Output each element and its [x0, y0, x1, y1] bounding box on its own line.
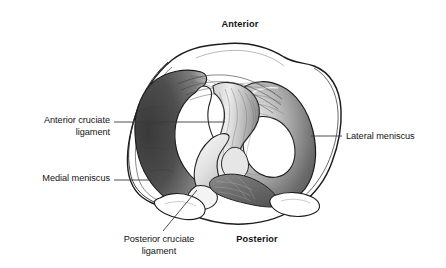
label-posterior-cruciate-ligament: Posterior cruciate ligament — [104, 234, 214, 257]
label-anterior-cruciate-ligament: Anterior cruciate ligament — [6, 115, 110, 138]
orientation-label-posterior: Posterior — [219, 234, 295, 246]
label-medial-meniscus: Medial meniscus — [6, 173, 110, 185]
orientation-label-anterior: Anterior — [186, 19, 294, 31]
label-lateral-meniscus: Lateral meniscus — [346, 131, 446, 143]
